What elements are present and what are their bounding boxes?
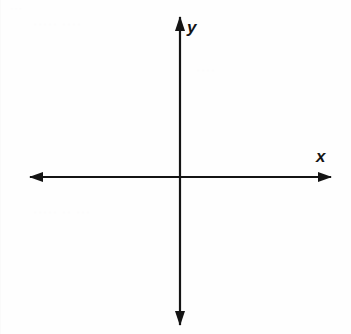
x-axis-label: x <box>316 148 325 165</box>
right-arrow-icon <box>318 172 332 182</box>
y-axis-label: y <box>187 19 196 36</box>
down-arrow-icon <box>175 311 185 326</box>
up-arrow-icon <box>175 16 185 31</box>
left-arrow-icon <box>29 172 43 182</box>
coordinate-plane-figure: ··· ····· ···· ···· ····· ·· ··· y x <box>0 0 351 334</box>
axes-drawing <box>0 0 351 334</box>
